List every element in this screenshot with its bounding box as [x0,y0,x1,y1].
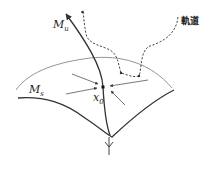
stable-flow-line [111,91,125,105]
trajectory-point [138,75,140,77]
unstable-manifold-label: Mu [52,18,69,33]
stable-flow-line [110,80,148,86]
trajectory-label: 軌道 [181,15,199,26]
trajectory-point [120,72,122,74]
fixed-point-label: x0 [93,91,104,106]
fixed-point-marker [102,86,105,89]
stable-unstable-manifold-diagram: Mu Ms x0 軌道 [0,0,211,175]
stable-manifold-label: Ms [28,83,44,98]
stable-flow-line [72,74,98,84]
trajectory-curve [83,12,178,77]
trajectory-start-dot [81,11,84,14]
